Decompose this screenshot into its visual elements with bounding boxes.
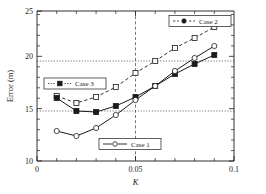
legend-case-1-marker [113, 142, 118, 147]
error-vs-k-line-chart: 10 15 20 25 0 0.05 0.1 K Error (m) [0, 0, 266, 194]
case-1-point-2 [94, 125, 99, 130]
legend-case-1[interactable]: Case 1 [99, 139, 161, 150]
case-2-point-6 [172, 46, 177, 51]
case-1-point-6 [172, 68, 177, 73]
x-tick-label-1: 0.05 [129, 165, 143, 174]
x-tick-label-2: 0.1 [229, 165, 239, 174]
case-3-point-2 [94, 110, 99, 115]
case-1-point-3 [113, 112, 118, 117]
y-axis-title: Error (m) [5, 70, 15, 103]
case-2-point-1 [74, 101, 79, 106]
legend-case-3[interactable]: Case 3 [44, 78, 106, 89]
case-1-point-7 [192, 55, 197, 60]
y-tick-label-2: 20 [25, 52, 33, 61]
case-1-point-0 [54, 128, 59, 133]
case-3-point-1 [74, 109, 79, 114]
case-1-point-4 [133, 97, 138, 102]
legend-case-1-label: Case 1 [131, 141, 150, 149]
legend-case-2-marker [182, 19, 186, 23]
y-tick-label-3: 25 [25, 7, 33, 16]
case-2-point-3 [113, 85, 118, 90]
case-3-point-0 [54, 96, 59, 101]
case-1-point-1 [74, 133, 79, 138]
legend-case-3-label: Case 3 [75, 80, 94, 88]
case-1-point-5 [153, 83, 158, 88]
chart-container: 10 15 20 25 0 0.05 0.1 K Error (m) [0, 0, 266, 194]
x-tick-label-0: 0 [35, 165, 39, 174]
case-2-point-4 [133, 71, 138, 76]
case-2-point-7 [192, 36, 197, 41]
case-2-point-5 [153, 59, 158, 64]
case-3-point-8 [212, 53, 217, 58]
case-3-point-3 [113, 104, 118, 109]
y-tick-label-0: 10 [25, 157, 33, 166]
legend-case-2[interactable]: Case 2 [169, 16, 231, 27]
legend-case-3-marker [58, 81, 63, 86]
case-3-point-7 [192, 62, 197, 67]
y-tick-label-1: 15 [25, 105, 33, 114]
legend-case-2-label: Case 2 [199, 18, 218, 26]
case-2-point-2 [94, 95, 99, 100]
case-1-point-8 [212, 43, 217, 48]
